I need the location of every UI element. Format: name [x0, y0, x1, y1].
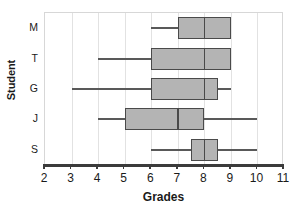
whisker-low — [98, 118, 125, 120]
x-tick — [96, 164, 98, 169]
median-line — [204, 78, 206, 100]
x-axis-line — [44, 164, 284, 167]
median-line — [204, 48, 206, 70]
box-g — [151, 78, 217, 100]
x-tick — [123, 164, 125, 169]
x-axis-title: Grades — [44, 190, 283, 204]
y-tick-label-j: J — [20, 112, 38, 124]
whisker-high — [218, 88, 231, 90]
plot-panel — [44, 12, 283, 164]
y-tick-label-t: T — [20, 52, 38, 64]
box-t — [151, 48, 231, 70]
x-tick-label: 3 — [59, 171, 83, 185]
x-tick-label: 5 — [112, 171, 136, 185]
box-plot-figure: Student MTGJS 234567891011 Grades — [0, 0, 302, 213]
whisker-low — [151, 149, 191, 151]
whisker-low — [72, 88, 152, 90]
x-tick-label: 7 — [165, 171, 189, 185]
median-line — [204, 17, 206, 39]
y-axis-title-text: Student — [5, 60, 17, 100]
x-tick — [70, 164, 72, 169]
y-tick-label-g: G — [20, 82, 38, 94]
median-line — [177, 108, 179, 130]
x-tick — [149, 164, 151, 169]
x-tick-label: 8 — [191, 171, 215, 185]
whisker-high — [218, 149, 258, 151]
y-tick-label-s: S — [20, 143, 38, 155]
x-tick — [203, 164, 205, 169]
whisker-low — [98, 58, 151, 60]
x-tick-label: 10 — [244, 171, 268, 185]
x-tick-label: 6 — [138, 171, 162, 185]
x-tick — [176, 164, 178, 169]
whisker-high — [204, 118, 257, 120]
x-tick — [256, 164, 258, 169]
gridline — [231, 13, 232, 165]
box-j — [125, 108, 205, 130]
x-tick-label: 4 — [85, 171, 109, 185]
median-line — [204, 139, 206, 161]
x-tick-label: 9 — [218, 171, 242, 185]
y-tick-label-m: M — [20, 21, 38, 33]
x-tick — [282, 164, 284, 169]
whisker-low — [151, 27, 178, 29]
x-tick-label: 2 — [32, 171, 56, 185]
y-axis-title: Student — [0, 0, 22, 160]
x-tick — [43, 164, 45, 169]
x-tick-label: 11 — [271, 171, 295, 185]
gridline — [257, 13, 258, 165]
x-tick — [229, 164, 231, 169]
